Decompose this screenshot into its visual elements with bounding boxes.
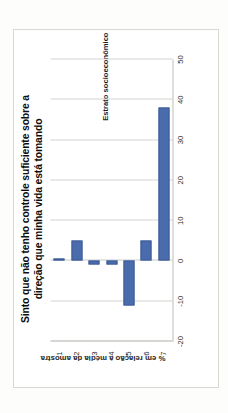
gridline-40 xyxy=(50,98,172,99)
bar-category-7 xyxy=(158,107,169,260)
gridline-20 xyxy=(50,179,172,180)
plot-area xyxy=(50,59,172,341)
chart-title: Sinto que não tenho controle suficiente … xyxy=(18,30,44,387)
bar-category-4 xyxy=(106,260,117,264)
value-tick-label: -10 xyxy=(175,289,184,313)
value-tick-label: 20 xyxy=(175,168,184,192)
chart-title-line-1: Sinto que não tenho controle suficiente … xyxy=(18,40,31,377)
category-tick-label: 6 xyxy=(141,343,150,363)
value-tick-label: 10 xyxy=(175,208,184,232)
value-tick-label: 50 xyxy=(175,47,184,71)
value-tick-label: 40 xyxy=(175,87,184,111)
bar-chart: Sinto que não tenho controle suficiente … xyxy=(14,30,218,387)
gridline--10 xyxy=(50,300,172,301)
category-axis-line xyxy=(50,340,172,341)
value-tick-label: 0 xyxy=(175,248,184,272)
value-tick-label: -20 xyxy=(175,329,184,353)
bar-category-5 xyxy=(123,260,134,304)
category-tick-label: 7 xyxy=(158,343,167,363)
chart-title-line-2: direção que minha vida está tomando xyxy=(31,40,44,377)
rotated-chart-viewport: Sinto que não tenho controle suficiente … xyxy=(14,30,218,387)
gridline-50 xyxy=(50,58,172,59)
category-tick-label: 5 xyxy=(123,343,132,363)
bar-category-2 xyxy=(71,240,82,260)
value-axis-line xyxy=(172,59,173,341)
value-tick-label: 30 xyxy=(175,128,184,152)
bar-category-1 xyxy=(53,258,64,260)
category-tick-label: 3 xyxy=(89,343,98,363)
bar-category-6 xyxy=(140,240,151,260)
category-tick-label: 4 xyxy=(106,343,115,363)
category-tick-label: 1 xyxy=(54,343,63,363)
gridline-10 xyxy=(50,219,172,220)
scanned-page-background: Sinto que não tenho controle suficiente … xyxy=(0,0,228,413)
gridline-30 xyxy=(50,139,172,140)
bar-category-3 xyxy=(88,260,99,264)
category-tick-label: 2 xyxy=(71,343,80,363)
